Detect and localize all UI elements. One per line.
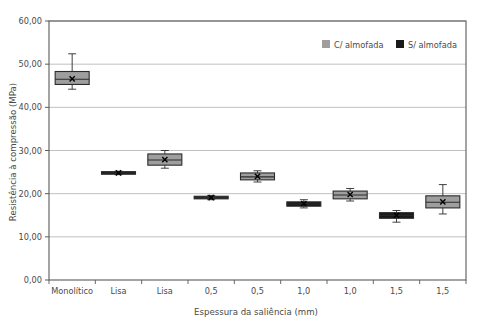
y-tick-label: 40,00	[19, 102, 42, 112]
y-tick-label: 30,00	[19, 146, 42, 156]
y-tick-label: 60,00	[19, 16, 42, 26]
x-tick-label: 0,5	[251, 286, 264, 296]
boxplot-chart: 0,0010,0020,0030,0040,0050,0060,00 Monol…	[0, 0, 481, 330]
x-tick-label: 1,0	[297, 286, 310, 296]
y-axis-title: Resistência à compressão (MPa)	[8, 83, 18, 221]
legend-label: C/ almofada	[334, 40, 383, 50]
x-tick-labels: MonolíticoLisaLisa0,50,51,01,01,51,5	[51, 286, 449, 296]
x-tick-label: 1,5	[436, 286, 449, 296]
y-tick-label: 50,00	[19, 59, 42, 69]
boxplot-box	[241, 171, 275, 182]
y-tick-label: 10,00	[19, 232, 42, 242]
boxplot-box	[102, 170, 136, 175]
legend-label: S/ almofada	[408, 40, 457, 50]
chart-canvas: 0,0010,0020,0030,0040,0050,0060,00 Monol…	[0, 0, 481, 330]
legend-swatch	[322, 40, 330, 48]
x-tick-label: 1,0	[344, 286, 357, 296]
legend-swatch	[396, 40, 404, 48]
x-tick-label: 0,5	[205, 286, 218, 296]
boxplot-box	[194, 195, 228, 200]
y-tick-label: 20,00	[19, 189, 42, 199]
x-axis-title: Espessura da saliência (mm)	[194, 307, 318, 317]
x-tick-label: 1,5	[390, 286, 403, 296]
x-tick-label: Monolítico	[51, 286, 93, 296]
x-tick-label: Lisa	[110, 286, 126, 296]
x-tick-label: Lisa	[157, 286, 173, 296]
y-tick-label: 0,00	[24, 275, 42, 285]
